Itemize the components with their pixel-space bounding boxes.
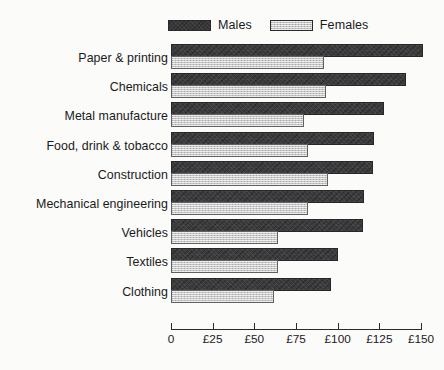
bar-females [171, 202, 308, 215]
category-label: Paper & printing [0, 52, 168, 64]
category-label: Food, drink & tobacco [0, 140, 168, 152]
category-label: Mechanical engineering [0, 198, 168, 210]
category-label: Chemicals [0, 81, 168, 93]
x-axis-tick [254, 323, 255, 330]
bar-group: Chemicals [0, 73, 444, 99]
x-axis-tick-label: £150 [401, 334, 441, 346]
bar-females [171, 56, 324, 69]
bar-females [171, 290, 274, 303]
bar-group: Clothing [0, 278, 444, 304]
x-axis-tick [379, 323, 380, 330]
bar-females [171, 114, 304, 127]
bar-females [171, 231, 278, 244]
bar-group: Mechanical engineering [0, 190, 444, 216]
bar-group: Metal manufacture [0, 102, 444, 128]
bar-group: Textiles [0, 248, 444, 274]
category-label: Textiles [0, 256, 168, 268]
x-axis-tick-label: 0 [151, 334, 191, 346]
bar-group: Construction [0, 161, 444, 187]
x-axis-tick [338, 323, 339, 330]
x-axis-tick-label: £75 [276, 334, 316, 346]
category-label: Metal manufacture [0, 110, 168, 122]
bar-group: Vehicles [0, 219, 444, 245]
x-axis-tick-label: £100 [318, 334, 358, 346]
bar-chart-plot-area: Paper & printingChemicalsMetal manufactu… [0, 0, 444, 370]
x-axis-tick [213, 323, 214, 330]
bar-females [171, 144, 308, 157]
x-axis-tick-label: £25 [193, 334, 233, 346]
x-axis-tick-label: £50 [234, 334, 274, 346]
bar-group: Paper & printing [0, 44, 444, 70]
x-axis-tick [296, 323, 297, 330]
x-axis-tick-label: £125 [359, 334, 399, 346]
bar-females [171, 173, 328, 186]
bar-females [171, 260, 278, 273]
category-label: Construction [0, 169, 168, 181]
category-label: Clothing [0, 286, 168, 298]
bar-females [171, 85, 326, 98]
bar-group: Food, drink & tobacco [0, 132, 444, 158]
x-axis-tick [171, 323, 172, 330]
x-axis-tick [421, 323, 422, 330]
category-label: Vehicles [0, 227, 168, 239]
